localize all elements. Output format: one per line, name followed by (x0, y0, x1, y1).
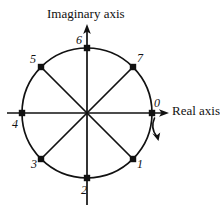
rotation-arrow-head (152, 133, 160, 141)
real-axis-title: Real axis (172, 104, 220, 117)
point-marker-1 (130, 156, 136, 162)
point-marker-5 (38, 64, 44, 70)
rotation-arrow-icon (152, 118, 160, 141)
rotation-arrow-curve (153, 118, 157, 136)
point-label-1: 1 (137, 158, 143, 170)
imaginary-axis-title: Imaginary axis (47, 7, 125, 20)
complex-plane-figure: Imaginary axis Real axis 0 1 2 3 4 5 6 7 (0, 0, 220, 214)
point-marker-0 (149, 110, 155, 116)
point-label-4: 4 (12, 118, 18, 130)
point-label-0: 0 (154, 97, 160, 109)
point-marker-3 (38, 156, 44, 162)
point-label-7: 7 (137, 52, 143, 64)
point-label-5: 5 (30, 53, 36, 65)
point-label-3: 3 (31, 158, 37, 170)
point-label-2: 2 (81, 184, 87, 196)
point-label-6: 6 (76, 34, 82, 46)
point-marker-2 (84, 175, 90, 181)
point-marker-4 (19, 110, 25, 116)
point-marker-6 (84, 45, 90, 51)
point-marker-7 (130, 64, 136, 70)
